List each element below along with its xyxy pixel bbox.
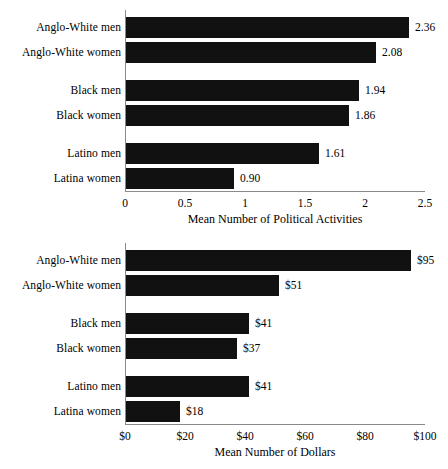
x-axis-tick-labels: $0$20$40$60$80$100 [0, 428, 448, 444]
bar-row: Latino men1.61 [0, 143, 448, 164]
x-axis-tick-labels: 00.511.522.5 [0, 195, 448, 211]
category-label: Anglo-White men [0, 17, 121, 38]
category-label: Latino men [0, 376, 121, 397]
category-label: Latina women [0, 401, 121, 422]
category-label: Anglo-White women [0, 275, 121, 296]
category-label: Black women [0, 338, 121, 359]
chart-political-activities: Anglo-White men2.36Anglo-White women2.08… [0, 0, 448, 235]
bar-value-label: 2.36 [409, 17, 435, 38]
bar [126, 376, 249, 397]
x-axis-line [125, 191, 425, 192]
bar [126, 338, 237, 359]
bar-row: Black men1.94 [0, 80, 448, 101]
bar [126, 143, 319, 164]
bar [126, 313, 249, 334]
x-tick-label: 0.5 [178, 195, 192, 211]
bar [126, 17, 409, 38]
bar-row: Latina women$18 [0, 401, 448, 422]
bar [126, 42, 376, 63]
bar-row: Black women$37 [0, 338, 448, 359]
x-axis-title: Mean Number of Political Activities [125, 212, 425, 227]
bar [126, 105, 349, 126]
bar-row: Anglo-White women$51 [0, 275, 448, 296]
bar-value-label: $41 [249, 376, 272, 397]
bar-value-label: 1.86 [349, 105, 375, 126]
x-tick-label: 1.5 [298, 195, 312, 211]
category-label: Anglo-White women [0, 42, 121, 63]
bar-row: Latina women0.90 [0, 168, 448, 189]
bar-value-label: $37 [237, 338, 260, 359]
x-tick-label: $40 [236, 428, 253, 444]
x-axis-title: Mean Number of Dollars [125, 445, 425, 460]
bar-row: Anglo-White men2.36 [0, 17, 448, 38]
x-tick-label: 2.5 [418, 195, 432, 211]
bar-row: Anglo-White women2.08 [0, 42, 448, 63]
bar [126, 80, 359, 101]
bar-row: Black men$41 [0, 313, 448, 334]
bar-value-label: 2.08 [376, 42, 402, 63]
x-tick-label: 0 [122, 195, 128, 211]
category-label: Black men [0, 80, 121, 101]
category-label: Black men [0, 313, 121, 334]
bar [126, 401, 180, 422]
category-label: Black women [0, 105, 121, 126]
bar-value-label: $95 [411, 250, 434, 271]
bar-row: Black women1.86 [0, 105, 448, 126]
bar-value-label: 0.90 [234, 168, 260, 189]
x-tick-label: $0 [119, 428, 131, 444]
x-tick-label: 1 [242, 195, 248, 211]
bar [126, 275, 279, 296]
category-label: Latino men [0, 143, 121, 164]
bar-row: Anglo-White men$95 [0, 250, 448, 271]
bar-value-label: $18 [180, 401, 203, 422]
x-tick-label: $20 [176, 428, 193, 444]
bar-value-label: $51 [279, 275, 302, 296]
x-tick-label: $80 [356, 428, 373, 444]
category-label: Latina women [0, 168, 121, 189]
bar [126, 168, 234, 189]
x-tick-label: 2 [362, 195, 368, 211]
bar [126, 250, 411, 271]
bar-row: Latino men$41 [0, 376, 448, 397]
x-tick-label: $100 [414, 428, 437, 444]
x-axis-line [125, 424, 425, 425]
x-tick-label: $60 [296, 428, 313, 444]
chart-dollars: Anglo-White men$95Anglo-White women$51Bl… [0, 235, 448, 469]
category-label: Anglo-White men [0, 250, 121, 271]
bar-value-label: $41 [249, 313, 272, 334]
bar-value-label: 1.61 [319, 143, 345, 164]
bar-value-label: 1.94 [359, 80, 385, 101]
